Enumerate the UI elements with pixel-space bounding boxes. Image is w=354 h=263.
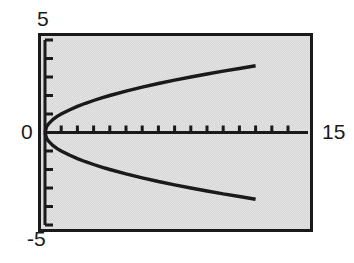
plot-canvas <box>41 36 310 229</box>
curve-lower-branch <box>45 133 256 200</box>
curve-upper-branch <box>45 66 256 133</box>
x-axis-max-label: 15 <box>322 121 345 142</box>
plot-frame <box>38 33 313 232</box>
origin-label: 0 <box>21 121 33 142</box>
y-axis-max-label: 5 <box>37 8 49 29</box>
plot-figure: 5 0 15 -5 <box>0 0 354 263</box>
axis-layer <box>45 40 308 225</box>
